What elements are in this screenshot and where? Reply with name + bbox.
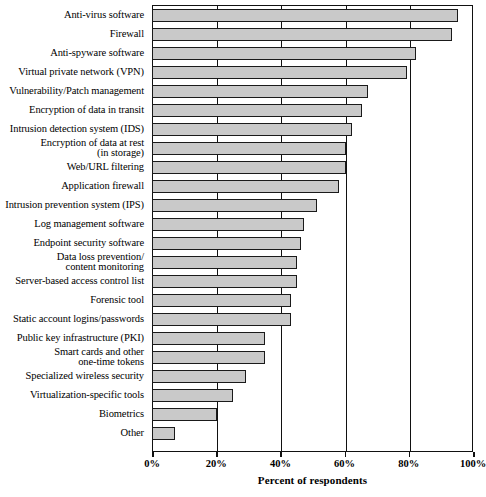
x-axis-tick: [409, 452, 411, 457]
bar-row: [153, 272, 472, 291]
bar: [152, 256, 297, 270]
category-label: Encryption of data in transit: [0, 100, 148, 119]
x-axis-tick-label: 0%: [144, 458, 160, 469]
bar: [152, 104, 362, 118]
category-label: Virtual private network (VPN): [0, 62, 148, 81]
bar-row: [153, 120, 472, 139]
category-label: Biometrics: [0, 404, 148, 423]
category-label: Log management software: [0, 214, 148, 233]
bar: [152, 199, 317, 213]
bar: [152, 294, 291, 308]
category-label: Data loss prevention/ content monitoring: [0, 252, 148, 271]
category-label: Intrusion detection system (IDS): [0, 119, 148, 138]
category-label: Static account logins/passwords: [0, 309, 148, 328]
x-axis-tick-label: 60%: [334, 458, 355, 469]
category-label: Specialized wireless security: [0, 366, 148, 385]
bar: [152, 237, 301, 251]
category-label: Intrusion prevention system (IPS): [0, 195, 148, 214]
category-label: Server-based access control list: [0, 271, 148, 290]
x-axis-tick-label: 80%: [398, 458, 419, 469]
category-label: Web/URL filtering: [0, 157, 148, 176]
category-label: Anti-virus software: [0, 5, 148, 24]
bar-row: [153, 82, 472, 101]
bar-row: [153, 329, 472, 348]
bar-row: [153, 101, 472, 120]
bar-row: [153, 310, 472, 329]
bar: [152, 9, 458, 23]
category-label: Smart cards and other one-time tokens: [0, 347, 148, 366]
bar: [152, 370, 246, 384]
category-label: Other: [0, 423, 148, 442]
bar: [152, 275, 297, 289]
category-label: Encryption of data at rest (in storage): [0, 138, 148, 157]
bar: [152, 123, 352, 137]
bar-row: [153, 424, 472, 443]
bar-row: [153, 63, 472, 82]
bar-row: [153, 367, 472, 386]
x-axis-tick: [216, 452, 218, 457]
bar-row: [153, 215, 472, 234]
x-axis-tick: [473, 452, 475, 457]
bar: [152, 180, 339, 194]
bar: [152, 427, 175, 441]
category-label: Firewall: [0, 24, 148, 43]
bar-row: [153, 6, 472, 25]
bar: [152, 66, 407, 80]
x-axis-tick-label: 100%: [460, 458, 486, 469]
bar: [152, 408, 217, 422]
category-label: Vulnerability/Patch management: [0, 81, 148, 100]
bar-row: [153, 348, 472, 367]
category-label: Forensic tool: [0, 290, 148, 309]
bar: [152, 351, 265, 365]
category-labels: Anti-virus softwareFirewallAnti-spyware …: [0, 5, 148, 442]
bar: [152, 313, 291, 327]
plot-area: [152, 5, 473, 452]
x-axis-title: Percent of respondents: [152, 474, 473, 486]
bar: [152, 28, 452, 42]
bar-row: [153, 405, 472, 424]
x-axis-tick-label: 20%: [206, 458, 227, 469]
category-label: Endpoint security software: [0, 233, 148, 252]
bar-row: [153, 139, 472, 158]
bar-row: [153, 177, 472, 196]
category-label: Public key infrastructure (PKI): [0, 328, 148, 347]
bar-row: [153, 253, 472, 272]
bar-row: [153, 44, 472, 63]
bar: [152, 47, 416, 61]
x-axis-tick-labels: 0%20%40%60%80%100%: [0, 458, 484, 472]
bar-row: [153, 196, 472, 215]
x-axis-tick: [280, 452, 282, 457]
bar-row: [153, 234, 472, 253]
x-axis-tick-label: 40%: [270, 458, 291, 469]
bar: [152, 142, 346, 156]
bar: [152, 85, 368, 99]
x-axis-ticks: [152, 452, 473, 457]
bar: [152, 218, 304, 232]
category-label: Anti-spyware software: [0, 43, 148, 62]
x-axis-tick: [345, 452, 347, 457]
bar-row: [153, 291, 472, 310]
bar-row: [153, 158, 472, 177]
x-axis-tick: [152, 452, 154, 457]
bar-row: [153, 25, 472, 44]
bars-container: [153, 6, 472, 451]
bar: [152, 389, 233, 403]
bar-row: [153, 386, 472, 405]
category-label: Virtualization-specific tools: [0, 385, 148, 404]
bar: [152, 161, 346, 175]
bar: [152, 332, 265, 346]
category-label: Application firewall: [0, 176, 148, 195]
